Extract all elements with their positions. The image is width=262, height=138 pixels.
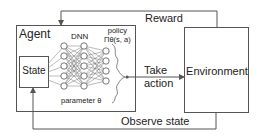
- take-action-label: Take action: [144, 64, 173, 90]
- state-label: State: [20, 66, 48, 76]
- dnn-edges: [48, 46, 106, 86]
- take-action-line1: Take: [144, 64, 173, 77]
- agent-label: Agent: [19, 28, 50, 40]
- policy-label: policy Πθ(s, a): [104, 27, 131, 44]
- reward-label: Reward: [145, 13, 183, 24]
- parameter-label: parameter θ: [61, 97, 101, 105]
- policy-formula: Πθ(s, a): [104, 36, 131, 45]
- reward-arrow: [61, 11, 217, 27]
- observe-state-label: Observe state: [121, 116, 189, 127]
- dnn-label: DNN: [71, 33, 88, 41]
- environment-label: Environment: [185, 66, 249, 77]
- take-action-line2: action: [144, 77, 173, 90]
- policy-brace: [112, 44, 125, 103]
